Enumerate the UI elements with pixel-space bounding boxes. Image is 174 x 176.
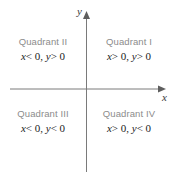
quadrant-4-conditions: x> 0, y< 0	[90, 122, 168, 135]
y-axis-arrowhead	[83, 11, 90, 19]
quadrant-3-name: Quadrant III	[4, 108, 82, 120]
quadrant-2-conditions: x< 0, y> 0	[4, 50, 82, 63]
quadrant-2-group: Quadrant II x< 0, y> 0	[4, 36, 82, 63]
quadrant-2-name: Quadrant II	[4, 36, 82, 48]
quadrant-3-y-relation: < 0	[51, 122, 65, 134]
quadrant-2-x-relation: < 0,	[26, 50, 43, 62]
quadrant-2-y-relation: > 0	[51, 50, 65, 62]
axes-diagram	[0, 0, 174, 176]
quadrant-4-group: Quadrant IV x> 0, y< 0	[90, 108, 168, 135]
quadrant-1-x-relation: > 0,	[112, 50, 129, 62]
coordinate-plane-figure: y x Quadrant II x< 0, y> 0 Quadrant I x>…	[0, 0, 174, 176]
quadrant-3-group: Quadrant III x< 0, y< 0	[4, 108, 82, 135]
quadrant-1-name: Quadrant I	[90, 36, 168, 48]
quadrant-3-x-relation: < 0,	[26, 122, 43, 134]
quadrant-3-conditions: x< 0, y< 0	[4, 122, 82, 135]
y-axis-label: y	[77, 6, 82, 17]
x-axis-label: x	[162, 92, 167, 103]
quadrant-1-group: Quadrant I x> 0, y> 0	[90, 36, 168, 63]
quadrant-4-y-relation: < 0	[137, 122, 151, 134]
quadrant-1-conditions: x> 0, y> 0	[90, 50, 168, 63]
quadrant-4-name: Quadrant IV	[90, 108, 168, 120]
quadrant-1-y-relation: > 0	[137, 50, 151, 62]
quadrant-4-x-relation: > 0,	[112, 122, 129, 134]
